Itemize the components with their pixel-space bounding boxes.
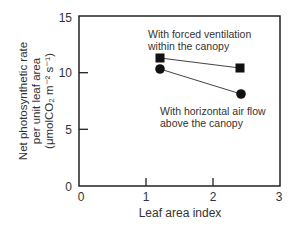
svg-text:10: 10 bbox=[59, 66, 73, 80]
square-marker bbox=[236, 64, 245, 73]
svg-text:With forced ventilation: With forced ventilation bbox=[148, 28, 251, 40]
svg-text:per unit leaf area: per unit leaf area bbox=[30, 57, 42, 144]
annotation-forced-ventilation: With forced ventilation within the canop… bbox=[147, 28, 251, 52]
svg-text:15: 15 bbox=[59, 11, 73, 25]
series-horizontal-airflow bbox=[155, 64, 246, 99]
svg-text:0: 0 bbox=[78, 190, 85, 204]
chart: 15 10 5 0 0 1 2 3 Leaf area index Net ph… bbox=[0, 0, 299, 233]
y-tick-labels: 15 10 5 0 bbox=[59, 11, 73, 194]
svg-text:within the canopy: within the canopy bbox=[147, 40, 230, 52]
svg-text:2: 2 bbox=[210, 190, 217, 204]
svg-text:(μmolCO₂ m⁻² s⁻¹): (μmolCO₂ m⁻² s⁻¹) bbox=[43, 53, 55, 149]
annotation-horizontal-airflow: With horizontal air flow above the canop… bbox=[160, 105, 266, 129]
svg-text:above the canopy: above the canopy bbox=[160, 117, 244, 129]
svg-text:Net photosynthetic rate: Net photosynthetic rate bbox=[17, 42, 29, 160]
svg-text:1: 1 bbox=[143, 190, 150, 204]
y-axis-label: Net photosynthetic rate per unit leaf ar… bbox=[17, 42, 55, 160]
svg-text:0: 0 bbox=[65, 180, 72, 194]
y-ticks bbox=[79, 73, 213, 186]
circle-marker bbox=[236, 89, 246, 99]
svg-text:With horizontal air flow: With horizontal air flow bbox=[160, 105, 266, 117]
series-forced-ventilation bbox=[156, 54, 245, 73]
x-axis-label: Leaf area index bbox=[139, 206, 222, 220]
x-tick-labels: 0 1 2 3 bbox=[78, 190, 283, 204]
svg-text:5: 5 bbox=[65, 123, 72, 137]
svg-text:3: 3 bbox=[276, 190, 283, 204]
circle-marker bbox=[155, 64, 165, 74]
square-marker bbox=[156, 54, 165, 63]
